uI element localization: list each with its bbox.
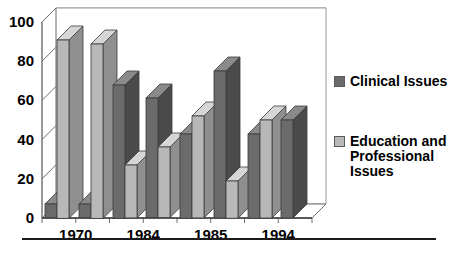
bar-clinical-6 (248, 134, 260, 218)
bar-education-3 (158, 147, 170, 218)
bar-clinical-0 (45, 204, 57, 218)
legend-label: Education and Professional Issues (350, 134, 446, 179)
bar-education-5 (226, 181, 238, 218)
y-tick-label-0: 0 (0, 210, 34, 225)
bar-education-0 (57, 40, 69, 218)
legend-item-clinical-issues[interactable]: Clinical Issues (334, 74, 452, 89)
bottom-rule (22, 238, 436, 240)
bar-education-2 (125, 165, 137, 218)
legend-label: Clinical Issues (350, 74, 447, 89)
bar-clinical-5 (214, 71, 226, 218)
y-tick-label-80: 80 (0, 53, 34, 68)
bar-clinical-4 (180, 134, 192, 218)
bar-clinical-7 (281, 120, 293, 218)
y-tick-label-20: 20 (0, 171, 34, 186)
bar-clinical-1 (79, 204, 91, 218)
bar-education-4 (192, 116, 204, 218)
legend-swatch-icon (334, 136, 345, 147)
y-tick-label-40: 40 (0, 132, 34, 147)
bar-education-6 (260, 120, 272, 218)
legend-item-education-professional-issues[interactable]: Education and Professional Issues (334, 134, 452, 179)
legend-swatch-icon (334, 76, 345, 87)
bar-clinical-2 (113, 85, 125, 218)
y-tick-label-60: 60 (0, 92, 34, 107)
y-axis-ticks (42, 8, 56, 218)
bar-clinical-3 (146, 98, 158, 218)
bar-chart: 020406080100 1970198419851994 Clinical I… (0, 0, 454, 260)
bar-education-1 (91, 44, 103, 218)
y-tick-label-100: 100 (0, 14, 34, 29)
